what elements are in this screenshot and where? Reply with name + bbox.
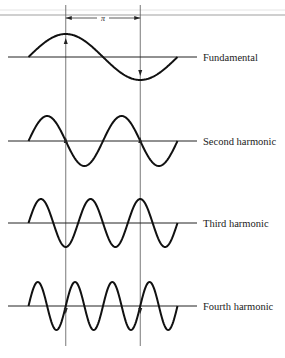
waves [8, 34, 197, 330]
harmonics-diagram: π FundamentalSecond harmonicThird harmon… [0, 0, 285, 358]
second-harmonic-label: Second harmonic [203, 136, 277, 147]
fundamental-label: Fundamental [203, 52, 258, 63]
arrowhead-right-icon [134, 16, 140, 20]
fourth-harmonic-label: Fourth harmonic [203, 301, 274, 312]
third-harmonic-label: Third harmonic [203, 218, 269, 229]
series-labels: FundamentalSecond harmonicThird harmonic… [203, 52, 277, 312]
arrowhead-left-icon [66, 16, 72, 20]
fundamental-right-arrow-down-icon [138, 70, 142, 76]
fundamental-left-arrow-up-icon [64, 38, 68, 44]
